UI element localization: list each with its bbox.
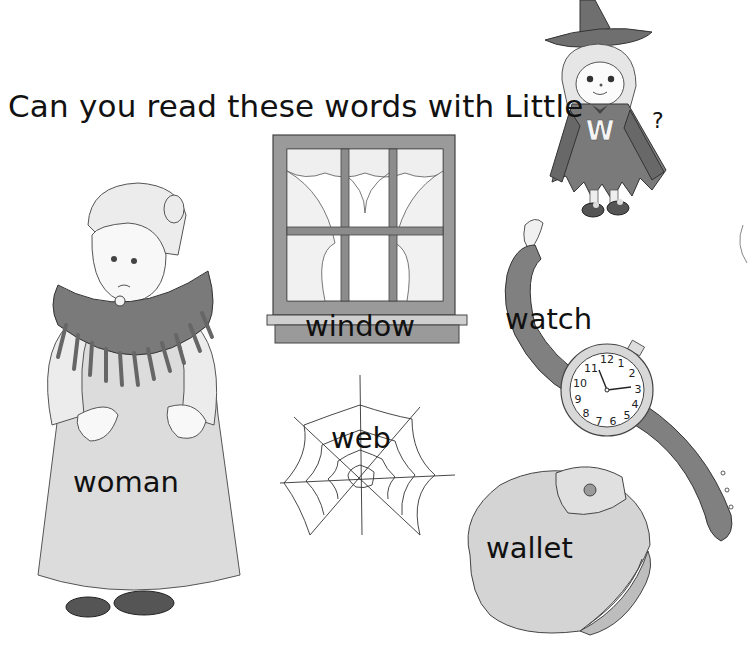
watch-number: 1 — [618, 357, 625, 370]
word-watch: watch — [505, 302, 592, 336]
title-question-mark: ? — [652, 108, 664, 133]
watch-number: 6 — [610, 415, 617, 428]
witch-letter: W — [586, 116, 615, 146]
watch-number: 7 — [596, 415, 603, 428]
watch-number: 2 — [629, 367, 636, 380]
word-window: window — [305, 309, 415, 343]
woman-icon — [18, 175, 248, 625]
watch-number: 3 — [635, 383, 642, 396]
spider-web-icon — [280, 375, 465, 540]
word-web: web — [331, 421, 391, 455]
watch-number: 11 — [584, 362, 598, 375]
edge-mark — [735, 225, 750, 265]
watch-number: 8 — [583, 407, 590, 420]
word-wallet: wallet — [486, 531, 573, 565]
watch-number: 4 — [632, 398, 639, 411]
watch-number: 5 — [624, 409, 631, 422]
watch-number: 12 — [600, 353, 614, 366]
page-title: Can you read these words with Little — [8, 88, 583, 124]
watch-number: 10 — [573, 377, 587, 390]
word-woman: woman — [73, 465, 179, 499]
watch-number: 9 — [575, 393, 582, 406]
